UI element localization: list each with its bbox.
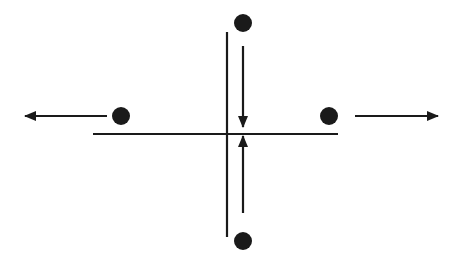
diagram-canvas <box>0 0 458 262</box>
dot-right <box>320 107 338 125</box>
arrows-group <box>25 46 438 213</box>
cross-diagram <box>0 0 458 262</box>
dots-group <box>112 14 338 250</box>
dot-bottom <box>234 232 252 250</box>
dot-top <box>234 14 252 32</box>
dot-left <box>112 107 130 125</box>
